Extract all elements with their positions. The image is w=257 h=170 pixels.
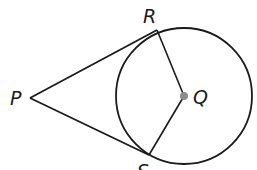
tangent-circle-diagram: P R Q S — [0, 0, 257, 170]
tangent-segment-pr — [30, 30, 157, 98]
label-s: S — [137, 160, 149, 170]
radius-qr — [157, 30, 184, 96]
label-p: P — [10, 87, 22, 109]
label-q: Q — [193, 86, 208, 108]
label-r: R — [143, 5, 156, 27]
tangent-segment-ps — [30, 98, 149, 155]
center-point-q — [180, 92, 188, 100]
radius-qs — [149, 96, 184, 155]
